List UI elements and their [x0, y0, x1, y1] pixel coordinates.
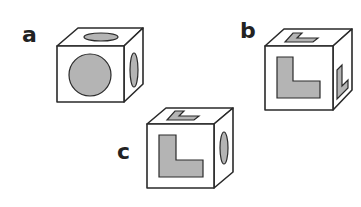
- cube-a-top-ellipse: [84, 33, 118, 41]
- cube-c-front-face: [147, 124, 214, 188]
- cube-a-front-circle: [69, 54, 111, 96]
- cube-diagram: a b c: [0, 0, 361, 207]
- cube-a-label: a: [22, 22, 37, 47]
- cube-c-right-ellipse: [220, 132, 228, 164]
- cube-b: b: [240, 18, 352, 110]
- cube-a-right-ellipse: [130, 53, 138, 87]
- cube-b-label: b: [240, 18, 256, 43]
- cube-b-front-face: [265, 46, 333, 110]
- cube-c-label: c: [117, 139, 130, 164]
- cube-a: a: [22, 22, 143, 102]
- cube-c: c: [117, 108, 233, 188]
